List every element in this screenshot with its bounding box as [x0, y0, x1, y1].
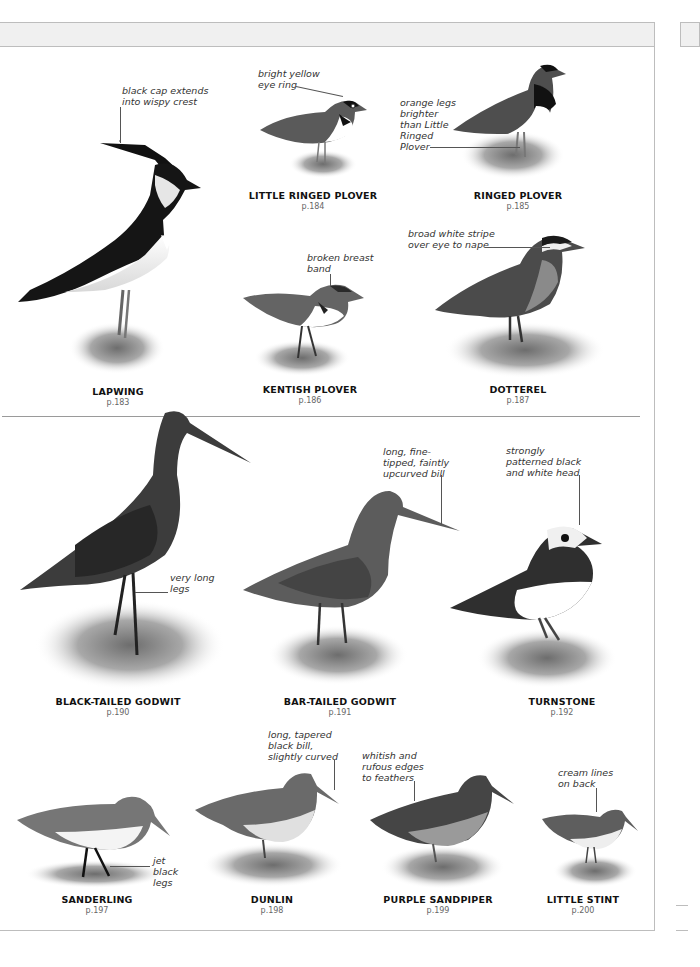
page-reference: p.190 — [107, 708, 130, 717]
page-reference: p.199 — [427, 906, 450, 915]
annotation-leader-line — [330, 274, 331, 286]
species-annotation: jet black legs — [153, 855, 178, 888]
page-bottom-border — [0, 930, 655, 931]
species-annotation: broken breast band — [307, 252, 373, 274]
species-name: LAPWING — [92, 386, 144, 397]
species-annotation: strongly patterned black and white head — [506, 445, 581, 478]
page-right-border — [654, 47, 655, 931]
species-name: DUNLIN — [251, 894, 293, 905]
next-page-rule — [676, 930, 688, 931]
species-name: PURPLE SANDPIPER — [383, 894, 492, 905]
page-reference: p.186 — [299, 396, 322, 405]
page-reference: p.191 — [329, 708, 352, 717]
page-reference: p.197 — [86, 906, 109, 915]
little-ringed-plover-illustration — [255, 92, 375, 182]
page-reference: p.185 — [507, 202, 530, 211]
page-reference: p.198 — [261, 906, 284, 915]
annotation-leader-line — [414, 781, 415, 801]
page-reference: p.200 — [572, 906, 595, 915]
annotation-leader-line — [441, 475, 442, 525]
page-reference: p.192 — [551, 708, 574, 717]
species-annotation: cream lines on back — [558, 767, 613, 789]
next-page-header-edge — [680, 22, 700, 47]
ringed-plover-illustration — [448, 60, 573, 185]
species-annotation: long, tapered black bill, slightly curve… — [268, 729, 338, 762]
page-reference: p.184 — [302, 202, 325, 211]
annotation-leader-line — [596, 788, 597, 812]
annotation-leader-line — [334, 760, 335, 790]
species-name: SANDERLING — [61, 894, 132, 905]
little-stint-illustration — [540, 805, 640, 887]
annotation-leader-line — [135, 592, 168, 593]
sanderling-illustration — [15, 792, 175, 892]
species-annotation: very long legs — [170, 572, 215, 594]
species-name: BLACK-TAILED GODWIT — [55, 696, 180, 707]
dunlin-illustration — [193, 770, 343, 888]
lapwing-illustration — [15, 140, 205, 375]
species-annotation: whitish and rufous edges to feathers — [362, 750, 424, 783]
black-tailed-godwit-illustration — [15, 405, 255, 690]
species-annotation: orange legs brighter than Little Ringed … — [400, 97, 456, 152]
kentish-plover-illustration — [240, 278, 370, 378]
turnstone-illustration — [447, 520, 627, 690]
species-name: KENTISH PLOVER — [263, 384, 357, 395]
purple-sandpiper-illustration — [368, 772, 518, 890]
species-annotation: black cap extends into wispy crest — [122, 85, 208, 107]
annotation-leader-line — [120, 107, 121, 143]
next-page-rule — [676, 905, 688, 906]
annotation-leader-line — [485, 247, 550, 248]
page-header-band — [0, 22, 655, 47]
species-name: LITTLE STINT — [547, 894, 619, 905]
species-name: DOTTEREL — [489, 384, 546, 395]
species-name: RINGED PLOVER — [474, 190, 563, 201]
dotterel-illustration — [430, 232, 615, 377]
annotation-leader-line — [430, 147, 520, 148]
species-annotation: bright yellow eye ring — [258, 68, 320, 90]
species-name: LITTLE RINGED PLOVER — [249, 190, 378, 201]
page-reference: p.187 — [507, 396, 530, 405]
bar-tailed-godwit-illustration — [238, 485, 463, 690]
annotation-leader-line — [579, 475, 580, 525]
species-name: TURNSTONE — [528, 696, 595, 707]
species-name: BAR-TAILED GODWIT — [284, 696, 396, 707]
species-annotation: broad white stripe over eye to nape — [408, 228, 495, 250]
annotation-leader-line — [110, 866, 150, 867]
species-annotation: long, fine- tipped, faintly upcurved bil… — [383, 446, 449, 479]
